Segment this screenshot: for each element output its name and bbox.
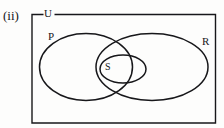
figure-index-label: (ii) bbox=[3, 9, 19, 22]
set-p-label: P bbox=[48, 31, 54, 42]
venn-diagram-canvas bbox=[0, 0, 224, 128]
set-p-ellipse bbox=[40, 34, 133, 101]
venn-diagram-figure: (ii) U P R S bbox=[0, 0, 224, 128]
universe-rectangle bbox=[32, 15, 216, 124]
universe-label: U bbox=[44, 8, 52, 19]
set-r-ellipse bbox=[96, 34, 208, 101]
set-r-label: R bbox=[202, 36, 209, 47]
set-s-label: S bbox=[105, 62, 111, 72]
